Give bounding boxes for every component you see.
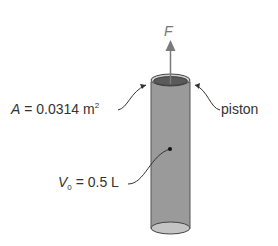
volume-label: V0 = 0.5 L xyxy=(58,174,119,192)
force-arrow-head xyxy=(166,40,176,51)
piston-label: piston xyxy=(221,101,258,117)
cylinder-bottom xyxy=(151,222,190,234)
area-label: A = 0.0314 m2 xyxy=(11,101,99,117)
diagram-graphics xyxy=(0,0,278,246)
cylinder-body xyxy=(151,82,190,228)
area-leader xyxy=(118,85,146,110)
force-label: F xyxy=(164,23,173,39)
piston-cylinder-diagram: F A = 0.0314 m2 piston V0 = 0.5 L xyxy=(0,0,278,246)
